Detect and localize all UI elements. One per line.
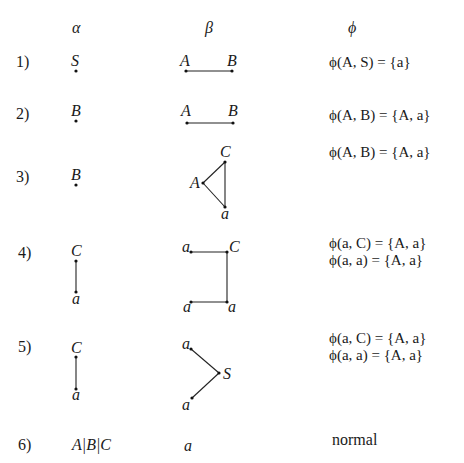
beta-node-dot [217,371,220,374]
beta-node-label: C [229,238,240,255]
phi-formula: ϕ(A, S) = {a} [329,54,411,71]
beta-edge [192,373,219,398]
beta-node-dot [230,69,233,72]
alpha-node-label: B [71,102,81,119]
beta-node-label: a [182,335,190,352]
beta-node-dot [184,69,187,72]
row-index: 1) [16,53,29,71]
row-4: 4) C a a C a a ϕ(a, C) = {A, a} ϕ(a, a) … [18,235,426,315]
beta-node-dot [225,250,228,253]
alpha-node-label: S [71,52,79,69]
alpha-node-label: B [71,166,81,183]
phi-formula: ϕ(a, C) = {A, a} [329,235,426,252]
beta-node-label: a [228,298,236,315]
alpha-node-dot [74,69,77,72]
beta-node-label: a [221,205,229,222]
beta-node-label: B [228,102,238,119]
alpha-node-dot [74,355,77,358]
header-alpha: α [72,19,81,36]
beta-node-label: A [179,52,190,69]
grammar-derivation-diagram: α β ϕ 1) S A B ϕ(A, S) = {a} 2) B A B ϕ(… [0,0,464,463]
row-1: 1) S A B ϕ(A, S) = {a} [16,52,411,73]
phi-status: normal [332,431,378,448]
beta-node-label: S [223,365,231,382]
row-index: 5) [18,338,31,356]
row-index: 2) [16,105,29,123]
beta-edge [203,162,225,183]
phi-formula: ϕ(a, a) = {A, a} [329,347,423,364]
phi-formula: ϕ(a, C) = {A, a} [329,330,426,347]
beta-node-label: B [227,52,237,69]
row-6: 6) A|B|C a normal [18,431,378,454]
beta-edge [203,183,225,207]
phi-formula: ϕ(a, a) = {A, a} [329,252,423,269]
alpha-node-dot [74,119,77,122]
beta-node-dot [190,396,193,399]
alpha-text: A|B|C [71,436,111,454]
phi-formula: ϕ(A, B) = {A, a} [329,144,431,161]
row-index: 3) [16,168,29,186]
beta-node-label: a [183,298,191,315]
alpha-node-label: a [72,290,80,307]
beta-node-label: a [182,238,190,255]
alpha-node-label: C [71,339,82,356]
alpha-node-dot [74,259,77,262]
beta-node-dot [185,121,188,124]
beta-node-dot [189,347,192,350]
beta-node-label: A [189,174,200,191]
row-index: 4) [18,244,31,262]
beta-node-label: a [182,396,190,413]
beta-node-dot [201,181,204,184]
header-beta: β [204,19,213,37]
alpha-node-label: C [71,242,82,259]
beta-text: a [184,437,192,454]
row-3: 3) B C A a ϕ(A, B) = {A, a} [16,143,431,222]
row-5: 5) C a a S a ϕ(a, C) = {A, a} ϕ(a, a) = … [18,330,426,413]
beta-node-dot [231,121,234,124]
phi-formula: ϕ(A, B) = {A, a} [329,107,431,124]
alpha-node-label: a [72,386,80,403]
beta-node-dot [223,160,226,163]
beta-node-label: C [220,143,231,160]
beta-edge [191,349,219,373]
beta-node-label: A [180,102,191,119]
row-2: 2) B A B ϕ(A, B) = {A, a} [16,102,431,125]
header-phi: ϕ [348,19,356,37]
row-index: 6) [18,436,31,454]
beta-node-dot [189,250,192,253]
alpha-node-dot [74,183,77,186]
